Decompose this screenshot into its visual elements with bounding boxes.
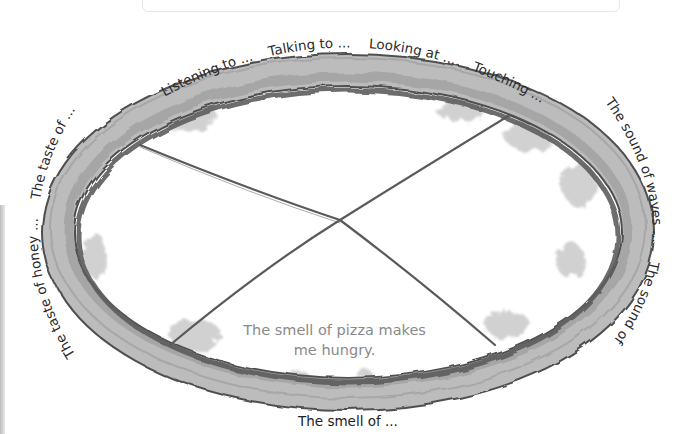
example-line-2: me hungry. bbox=[232, 340, 437, 360]
divider-lines bbox=[140, 115, 510, 345]
label-smell-of: The smell of ... bbox=[298, 413, 398, 429]
example-line-1: The smell of pizza makes bbox=[232, 320, 437, 340]
example-sentence: The smell of pizza makes me hungry. bbox=[232, 320, 437, 360]
senses-wheel: Listening to ... Talking to ... Looking … bbox=[0, 0, 684, 434]
